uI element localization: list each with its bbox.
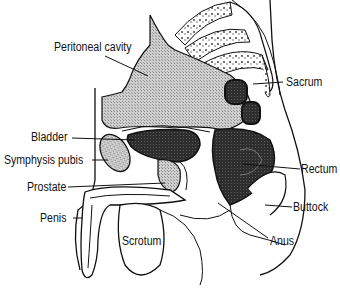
pelvis-diagram: Peritoneal cavity Sacrum Bladder Symphys…	[0, 0, 340, 290]
label-anus: Anus	[270, 234, 294, 248]
bladder-shape	[127, 130, 200, 162]
prostate-shape	[158, 160, 180, 192]
label-buttock: Buttock	[293, 200, 328, 214]
label-rectum: Rectum	[301, 162, 337, 176]
label-sacrum: Sacrum	[286, 75, 322, 89]
label-peritoneal-cavity: Peritoneal cavity	[54, 40, 131, 54]
label-penis: Penis	[40, 211, 66, 225]
label-prostate: Prostate	[27, 180, 66, 194]
label-bladder: Bladder	[31, 130, 67, 144]
label-symphysis-pubis: Symphysis pubis	[4, 153, 83, 167]
label-scrotum: Scrotum	[122, 234, 161, 248]
